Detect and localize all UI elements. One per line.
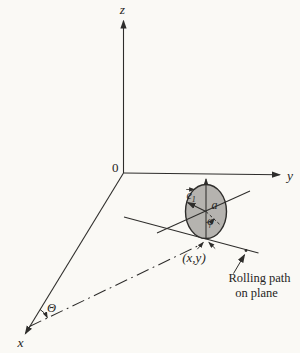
- theta-label: Θ: [47, 301, 56, 315]
- contact-point-label: (x,y): [182, 250, 205, 265]
- y-axis-label: y: [285, 168, 293, 183]
- x-axis-label: x: [17, 335, 24, 350]
- disk-radius-label: a: [212, 198, 218, 212]
- e1-label-subscript: 1: [192, 195, 196, 204]
- z-axis-label: z: [119, 2, 126, 17]
- paper-background: [0, 0, 300, 353]
- origin-label: 0: [112, 160, 119, 175]
- rolling-path-caption-line2: on plane: [235, 286, 278, 300]
- figure-canvas: Θ φ e1 a (x,y) Rolling path on plane z y…: [0, 0, 300, 353]
- rolling-disk-diagram: Θ φ e1 a (x,y) Rolling path on plane z y…: [0, 0, 300, 353]
- phi-label: φ: [207, 215, 214, 228]
- rolling-path-callout-dot: [245, 249, 248, 252]
- rolling-path-caption-line1: Rolling path: [228, 271, 291, 285]
